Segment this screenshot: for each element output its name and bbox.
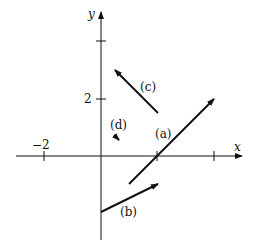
- vector-a-label: (a): [155, 127, 172, 141]
- vector-b-label: (b): [120, 205, 137, 219]
- vector-d: [114, 135, 119, 140]
- vector-diagram: x y −2 2 (a) (b) (c) (d): [0, 0, 257, 251]
- vector-c-label: (c): [140, 80, 156, 94]
- y-tick-label-2: 2: [84, 92, 92, 106]
- vector-d-label: (d): [110, 118, 127, 132]
- y-axis-label: y: [87, 7, 95, 21]
- vector-a: [129, 99, 214, 184]
- x-tick-label-neg2: −2: [32, 138, 50, 152]
- x-axis-label: x: [234, 140, 241, 154]
